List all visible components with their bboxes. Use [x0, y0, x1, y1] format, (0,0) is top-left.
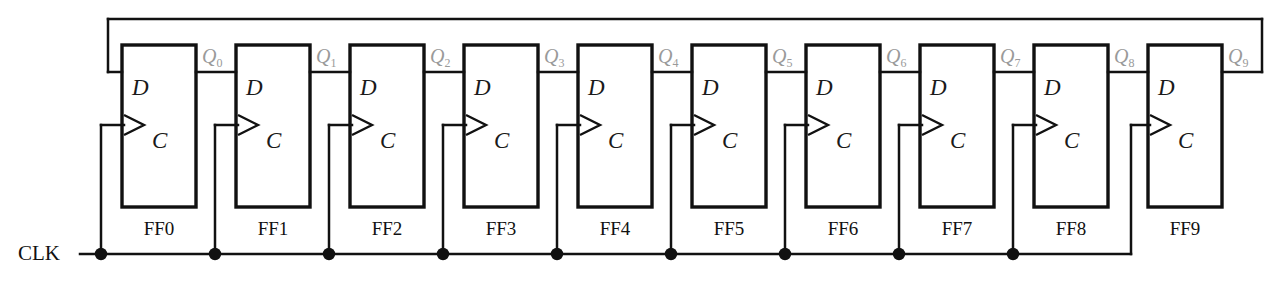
pin-label-c-ff9: C [1178, 129, 1193, 152]
flipflop-label-ff1: FF1 [218, 219, 328, 238]
flipflop-box-ff4 [578, 45, 652, 207]
pin-label-d-ff7: D [930, 76, 947, 99]
clock-triangle-ff3 [466, 115, 486, 135]
pin-label-c-ff6: C [836, 129, 851, 152]
flipflop-label-ff8: FF8 [1016, 219, 1126, 238]
flipflop-label-ff3: FF3 [446, 219, 556, 238]
output-label-q8: Q8 [1114, 46, 1134, 66]
pin-label-c-ff8: C [1064, 129, 1079, 152]
pin-label-d-ff3: D [474, 76, 491, 99]
flipflop-box-ff3 [464, 45, 538, 207]
flipflop-box-ff2 [350, 45, 424, 207]
pin-label-c-ff5: C [722, 129, 737, 152]
clock-junction-dot-ff6 [779, 248, 791, 260]
clock-junction-dot-ff0 [95, 248, 107, 260]
clock-triangle-ff8 [1036, 115, 1056, 135]
clock-triangle-ff9 [1150, 115, 1170, 135]
pin-label-c-ff4: C [608, 129, 623, 152]
pin-label-c-ff7: C [950, 129, 965, 152]
clock-junction-dot-ff7 [893, 248, 905, 260]
circuit-wiring [0, 0, 1281, 292]
clock-triangle-ff6 [808, 115, 828, 135]
flipflop-box-ff5 [692, 45, 766, 207]
pin-label-c-ff2: C [380, 129, 395, 152]
clock-triangle-ff2 [352, 115, 372, 135]
flipflop-label-ff0: FF0 [104, 219, 214, 238]
pin-label-d-ff5: D [702, 76, 719, 99]
clock-input-label: CLK [18, 243, 60, 264]
pin-label-d-ff8: D [1044, 76, 1061, 99]
pin-label-d-ff1: D [246, 76, 263, 99]
pin-label-d-ff9: D [1158, 76, 1175, 99]
pin-label-d-ff4: D [588, 76, 605, 99]
clock-triangle-ff1 [238, 115, 258, 135]
circuit-diagram: DCQ0FF0DCQ1FF1DCQ2FF2DCQ3FF3DCQ4FF4DCQ5F… [0, 0, 1281, 292]
output-label-q0: Q0 [202, 46, 222, 66]
flipflop-label-ff4: FF4 [560, 219, 670, 238]
pin-label-c-ff0: C [152, 129, 167, 152]
flipflop-box-ff6 [806, 45, 880, 207]
clock-junction-dot-ff2 [323, 248, 335, 260]
flipflop-box-ff9 [1148, 45, 1222, 207]
clock-junction-dot-ff5 [665, 248, 677, 260]
output-label-q7: Q7 [1000, 46, 1020, 66]
pin-label-d-ff6: D [816, 76, 833, 99]
pin-label-d-ff0: D [132, 76, 149, 99]
output-label-q3: Q3 [544, 46, 564, 66]
flipflop-label-ff2: FF2 [332, 219, 442, 238]
flipflop-box-ff7 [920, 45, 994, 207]
flipflop-label-ff5: FF5 [674, 219, 784, 238]
clock-triangle-ff5 [694, 115, 714, 135]
clock-triangle-ff4 [580, 115, 600, 135]
clock-junction-dot-ff3 [437, 248, 449, 260]
output-label-q9: Q9 [1228, 46, 1248, 66]
clock-triangle-ff0 [124, 115, 144, 135]
flipflop-box-ff1 [236, 45, 310, 207]
clock-junction-dot-ff8 [1007, 248, 1019, 260]
output-label-q5: Q5 [772, 46, 792, 66]
pin-label-c-ff1: C [266, 129, 281, 152]
flipflop-label-ff7: FF7 [902, 219, 1012, 238]
flipflop-box-ff0 [122, 45, 196, 207]
pin-label-d-ff2: D [360, 76, 377, 99]
clock-triangle-ff7 [922, 115, 942, 135]
flipflop-box-ff8 [1034, 45, 1108, 207]
clock-junction-dot-ff1 [209, 248, 221, 260]
pin-label-c-ff3: C [494, 129, 509, 152]
flipflop-label-ff6: FF6 [788, 219, 898, 238]
flipflop-label-ff9: FF9 [1130, 219, 1240, 238]
output-label-q2: Q2 [430, 46, 450, 66]
clock-junction-dot-ff4 [551, 248, 563, 260]
output-label-q1: Q1 [316, 46, 336, 66]
output-label-q4: Q4 [658, 46, 678, 66]
output-label-q6: Q6 [886, 46, 906, 66]
